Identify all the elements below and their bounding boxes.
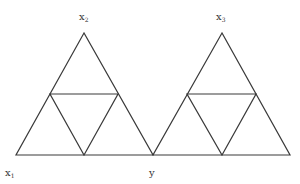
label-y-base: y bbox=[149, 167, 155, 178]
right-triangle bbox=[153, 33, 290, 155]
left-triangle bbox=[16, 33, 153, 155]
label-x3-sub: 3 bbox=[222, 16, 226, 23]
label-x2: x2 bbox=[79, 12, 88, 23]
label-x1: x1 bbox=[5, 168, 14, 179]
label-x2-sub: 2 bbox=[85, 16, 89, 23]
left-inner-triangle bbox=[50, 94, 118, 155]
label-x3: x3 bbox=[216, 12, 225, 23]
label-y: y bbox=[149, 168, 155, 178]
right-inner-triangle bbox=[187, 94, 256, 155]
label-x1-sub: 1 bbox=[11, 172, 15, 179]
triangle-diagram bbox=[0, 0, 300, 184]
